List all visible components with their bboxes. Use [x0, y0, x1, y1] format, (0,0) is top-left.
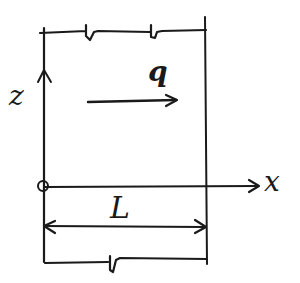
diagram-drawing — [0, 0, 300, 283]
x-axis-label: x — [264, 168, 280, 196]
length-dimension-line — [44, 226, 205, 227]
load-label: q — [148, 58, 168, 86]
x-axis-line — [44, 186, 258, 187]
load-arrow-line — [88, 100, 176, 102]
diagram-canvas: z q x L — [0, 0, 300, 283]
length-label: L — [110, 193, 130, 223]
z-axis-label: z — [9, 82, 24, 110]
bottom-boundary-line — [45, 256, 207, 272]
top-boundary-line — [40, 25, 206, 40]
